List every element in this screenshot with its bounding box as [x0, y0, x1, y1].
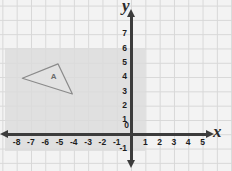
coordinate-plane: -8-7-6-5-4-3-2-112345 7654321-1 0 A y x — [0, 0, 232, 171]
triangle-shape-a — [0, 0, 232, 171]
y-axis-name: y — [122, 0, 130, 16]
triangle-label-a: A — [51, 72, 57, 81]
x-axis-name: x — [213, 122, 222, 142]
